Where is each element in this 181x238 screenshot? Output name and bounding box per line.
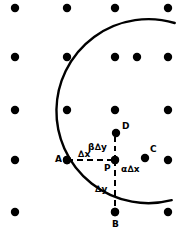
grid-dot <box>11 156 19 164</box>
point-marker-A <box>63 156 71 164</box>
grid-dot <box>11 53 19 61</box>
grid-dot <box>164 106 172 114</box>
annotation-beta-delta-y: β∆y <box>88 143 107 152</box>
point-marker-E <box>133 53 141 61</box>
grid-dot <box>164 4 172 12</box>
point-marker-P <box>111 156 119 164</box>
grid-dot <box>164 208 172 216</box>
grid-dot <box>11 106 19 114</box>
point-marker-B <box>111 208 119 216</box>
annotation-alpha-delta-x: α∆x <box>121 165 140 174</box>
point-label-C: C <box>150 145 157 154</box>
point-label-B: B <box>112 220 119 229</box>
grid-dot <box>63 53 71 61</box>
point-marker-C <box>141 154 149 162</box>
point-label-A: A <box>55 155 62 164</box>
grid-dot <box>111 53 119 61</box>
grid-dot <box>63 106 71 114</box>
grid-dot <box>111 106 119 114</box>
grid-dot <box>11 4 19 12</box>
grid-dot <box>11 208 19 216</box>
point-label-D: D <box>122 122 130 131</box>
point-label-P: P <box>104 164 111 173</box>
grid-dot <box>164 156 172 164</box>
diagram-canvas: APBCD∆xβ∆yα∆x∆y <box>0 0 181 238</box>
grid-dot <box>164 53 172 61</box>
point-marker-D <box>112 129 120 137</box>
grid-dot <box>111 4 119 12</box>
annotation-delta-y: ∆y <box>95 185 108 194</box>
grid-dot <box>63 4 71 12</box>
diagram-vector-layer <box>0 0 181 238</box>
